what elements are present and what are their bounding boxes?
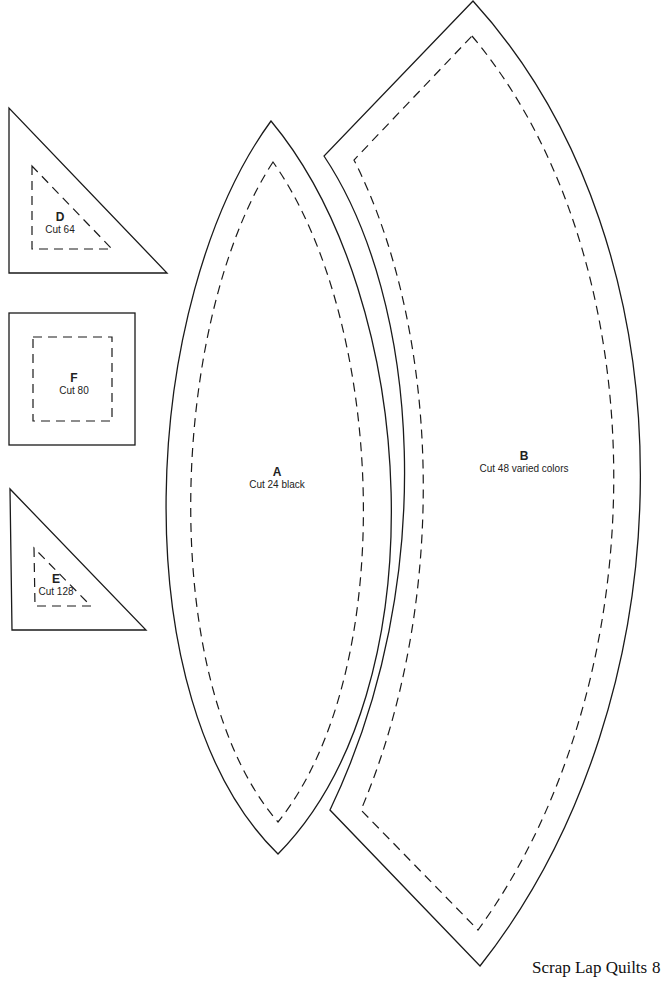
piece-b-template bbox=[324, 1, 640, 966]
piece-b-cutting-line bbox=[324, 1, 640, 966]
piece-d-template bbox=[9, 108, 167, 273]
piece-d-cut-count: Cut 64 bbox=[45, 224, 74, 236]
piece-d-letter: D bbox=[45, 211, 74, 224]
piece-d-cutting-line bbox=[9, 108, 167, 273]
piece-e-label: E Cut 128 bbox=[38, 573, 73, 598]
piece-b-seam-line bbox=[354, 36, 614, 930]
piece-f-cut-count: Cut 80 bbox=[59, 385, 88, 397]
piece-a-letter: A bbox=[249, 466, 305, 479]
piece-e-cutting-line bbox=[10, 489, 146, 630]
piece-e-cut-count: Cut 128 bbox=[38, 586, 73, 598]
piece-d-label: D Cut 64 bbox=[45, 211, 74, 236]
piece-d-seam-line bbox=[32, 166, 112, 249]
piece-e-template bbox=[10, 489, 146, 630]
piece-a-cut-count: Cut 24 black bbox=[249, 479, 305, 491]
piece-b-label: B Cut 48 varied colors bbox=[480, 450, 569, 475]
footer-page-number: 8 bbox=[652, 958, 661, 978]
piece-f-letter: F bbox=[59, 372, 88, 385]
piece-a-label: A Cut 24 black bbox=[249, 466, 305, 491]
piece-b-cut-count: Cut 48 varied colors bbox=[480, 463, 569, 475]
piece-e-letter: E bbox=[38, 573, 73, 586]
piece-f-label: F Cut 80 bbox=[59, 372, 88, 397]
piece-b-letter: B bbox=[480, 450, 569, 463]
footer-book-title: Scrap Lap Quilts bbox=[532, 958, 647, 978]
piece-a-seam-line bbox=[191, 162, 364, 822]
